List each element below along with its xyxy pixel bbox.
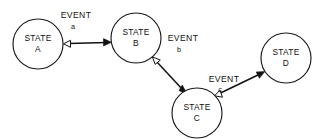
event-b-title: EVENT — [168, 33, 199, 43]
state-b-label-line1: STATE — [123, 27, 150, 37]
state-a-label-line1: STATE — [25, 33, 52, 43]
transition-c-arrowhead-icon — [256, 72, 265, 79]
transition-a-line — [68, 42, 107, 43]
state-node-d[interactable]: STATE D — [261, 33, 311, 83]
state-diagram-canvas: STATE A STATE B STATE C STATE D EVENT a … — [0, 0, 316, 139]
event-b-name: b — [177, 45, 181, 54]
state-c-label-line1: STATE — [184, 102, 211, 112]
event-label-a: EVENT a — [61, 10, 92, 31]
state-node-b[interactable]: STATE B — [111, 13, 161, 63]
transition-b — [152, 57, 187, 95]
state-d-label-line1: STATE — [273, 47, 300, 57]
event-label-b: EVENT b — [168, 33, 199, 54]
transition-b-tail-open-triangle — [152, 57, 160, 65]
transition-b-line — [157, 62, 184, 91]
state-a-label-line2: A — [35, 44, 41, 54]
event-a-name: a — [71, 22, 75, 31]
state-node-c[interactable]: STATE C — [172, 88, 222, 138]
state-d-label-line2: D — [283, 58, 289, 68]
transition-a — [64, 39, 112, 48]
state-b-label-line2: B — [133, 38, 139, 48]
state-node-a[interactable]: STATE A — [13, 19, 63, 69]
event-c-title: EVENT — [209, 74, 240, 84]
event-a-title: EVENT — [61, 10, 92, 20]
transition-a-arrowhead-icon — [104, 39, 112, 46]
state-diagram: STATE A STATE B STATE C STATE D EVENT a … — [0, 0, 316, 139]
state-c-label-line2: C — [194, 113, 200, 123]
event-c-name: c — [218, 85, 222, 94]
transition-a-tail-open-triangle — [64, 40, 71, 47]
